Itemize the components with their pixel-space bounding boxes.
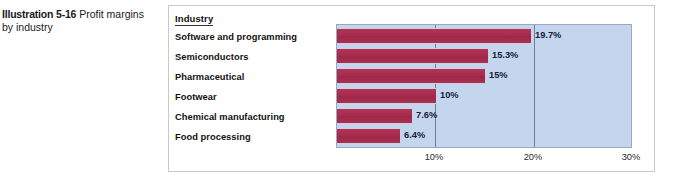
bar-pharmaceutical <box>337 68 485 84</box>
bar-value-pharmaceutical: 15% <box>489 70 508 80</box>
bar-value-semiconductors: 15.3% <box>492 50 518 60</box>
figure-frame: Industry Software and programming Semico… <box>168 5 655 172</box>
bar-semiconductors <box>337 48 488 64</box>
category-label-pharmaceutical: Pharmaceutical <box>175 72 244 82</box>
xtick-label-10: 10% <box>425 152 444 162</box>
figure-caption: Illustration 5-16 Profit margins by indu… <box>2 8 152 34</box>
xtick-label-30: 30% <box>622 152 641 162</box>
xtick-label-20: 20% <box>524 152 543 162</box>
gridline-20 <box>534 25 535 147</box>
category-label-footwear: Footwear <box>175 92 217 102</box>
caption-number: Illustration 5-16 <box>2 8 76 20</box>
bar-chart-plot-area: 19.7% 15.3% 15% 10% 7.6% 6.4% <box>336 24 632 148</box>
industry-label-column: Industry Software and programming Semico… <box>175 10 335 162</box>
bar-value-footwear: 10% <box>440 90 459 100</box>
category-label-food: Food processing <box>175 132 251 142</box>
category-label-software: Software and programming <box>175 32 297 42</box>
bar-value-software: 19.7% <box>535 30 561 40</box>
bar-software <box>337 28 531 44</box>
bar-value-chemical: 7.6% <box>416 110 437 120</box>
category-label-semiconductors: Semiconductors <box>175 52 249 62</box>
bar-food <box>337 128 400 144</box>
bar-value-food: 6.4% <box>404 130 425 140</box>
industry-column-header: Industry <box>175 13 213 26</box>
category-label-chemical: Chemical manufacturing <box>175 112 285 122</box>
bar-chemical <box>337 108 412 124</box>
bar-footwear <box>337 88 436 104</box>
